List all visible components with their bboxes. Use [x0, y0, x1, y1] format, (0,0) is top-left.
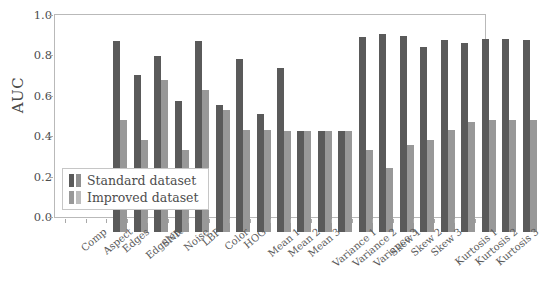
bar-standard — [236, 59, 243, 232]
bar-group — [519, 30, 539, 232]
bar-standard — [379, 34, 386, 232]
bar-group — [376, 30, 396, 232]
bar-group — [478, 30, 498, 232]
x-tick-mark — [352, 219, 353, 223]
bar-standard — [359, 37, 366, 232]
bar-group — [356, 30, 376, 232]
bar-standard — [400, 36, 407, 232]
bar-improved — [509, 120, 516, 232]
bar-improved — [202, 90, 209, 232]
bar-standard — [523, 40, 530, 232]
x-tick-mark — [127, 219, 128, 223]
bar-standard — [461, 43, 468, 232]
bar-improved — [284, 131, 291, 232]
y-tick-mark — [48, 15, 53, 16]
bar-group — [458, 30, 478, 232]
bar-group — [335, 30, 355, 232]
y-tick-mark — [48, 96, 53, 97]
x-axis-labels: CompAspectEdgesEdgelenSNRNoiseLBPColorHO… — [55, 219, 485, 285]
x-tick-label: SNR — [160, 226, 185, 249]
x-tick-mark — [311, 219, 312, 223]
bar-group — [438, 30, 458, 232]
y-tick-label: 1.0 — [12, 8, 52, 22]
x-tick-mark — [168, 219, 169, 223]
legend-item-improved: Improved dataset — [69, 190, 199, 205]
bar-standard — [482, 39, 489, 232]
y-tick-mark — [48, 177, 53, 178]
bar-group — [417, 30, 437, 232]
bar-improved — [345, 131, 352, 232]
bar-group — [294, 30, 314, 232]
x-tick-mark — [393, 219, 394, 223]
bar-standard — [297, 131, 304, 232]
x-tick-mark — [209, 219, 210, 223]
bar-improved — [468, 122, 475, 232]
bar-standard — [175, 101, 182, 232]
bar-improved — [530, 120, 537, 232]
x-tick-mark — [413, 219, 414, 223]
legend-label-improved: Improved dataset — [87, 190, 199, 205]
x-tick-mark — [86, 219, 87, 223]
bar-standard — [257, 114, 264, 232]
x-tick-mark — [188, 219, 189, 223]
y-tick-label: 0.8 — [12, 48, 52, 62]
y-tick-mark — [48, 55, 53, 56]
bar-improved — [243, 130, 250, 232]
bar-group — [233, 30, 253, 232]
legend-swatch-standard — [69, 174, 81, 187]
x-tick-mark — [250, 219, 251, 223]
x-tick-mark — [454, 219, 455, 223]
legend-label-standard: Standard dataset — [87, 173, 196, 188]
bar-standard — [277, 68, 284, 232]
y-tick-mark — [48, 136, 53, 137]
x-tick-mark — [434, 219, 435, 223]
x-tick-mark — [147, 219, 148, 223]
bar-group — [499, 30, 519, 232]
bar-group — [397, 30, 417, 232]
x-tick-mark — [106, 219, 107, 223]
bar-improved — [448, 130, 455, 232]
bar-standard — [318, 131, 325, 232]
x-tick-mark — [229, 219, 230, 223]
bar-improved — [264, 130, 271, 232]
x-tick-mark — [270, 219, 271, 223]
bar-group — [315, 30, 335, 232]
x-tick-mark — [372, 219, 373, 223]
bar-group — [274, 30, 294, 232]
bar-group — [253, 30, 273, 232]
chart-legend: Standard dataset Improved dataset — [62, 168, 209, 210]
legend-swatch-improved — [69, 191, 81, 204]
bar-standard — [338, 131, 345, 232]
y-tick-label: 0.0 — [12, 210, 52, 224]
bar-group — [212, 30, 232, 232]
bar-improved — [325, 131, 332, 232]
x-tick-mark — [331, 219, 332, 223]
y-tick-label: 0.4 — [12, 129, 52, 143]
bar-standard — [216, 105, 223, 232]
x-tick-mark — [65, 219, 66, 223]
bar-improved — [304, 131, 311, 232]
bar-standard — [441, 40, 448, 232]
y-tick-mark — [48, 217, 53, 218]
bar-standard — [502, 39, 509, 232]
x-tick-mark — [290, 219, 291, 223]
bar-improved — [489, 120, 496, 232]
legend-item-standard: Standard dataset — [69, 173, 199, 188]
y-tick-label: 0.6 — [12, 89, 52, 103]
bar-improved — [223, 110, 230, 232]
x-tick-mark — [475, 219, 476, 223]
bar-standard — [420, 47, 427, 232]
y-tick-label: 0.2 — [12, 170, 52, 184]
